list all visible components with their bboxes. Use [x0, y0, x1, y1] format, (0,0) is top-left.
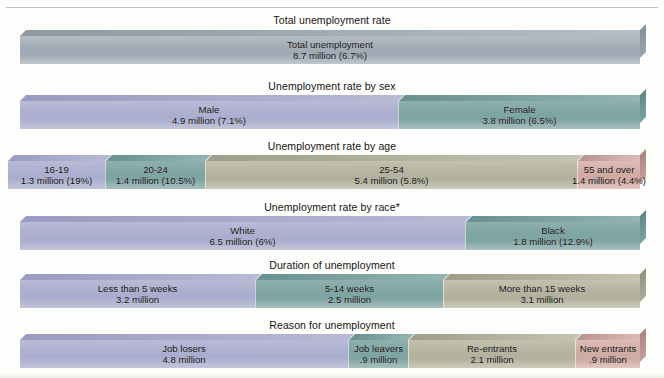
bar-segment[interactable]: 25-545.4 million (5.8%) [205, 161, 577, 189]
stacked-bar: Job losers4.8 millionJob leavers.9 milli… [0, 334, 664, 368]
bar-segment[interactable]: More than 15 weeks3.1 million [443, 280, 640, 308]
segment-name: 16-19 [21, 164, 92, 175]
segment-top-face [20, 95, 404, 101]
segment-label: Female3.8 million (6.5%) [482, 104, 556, 127]
segment-name: 25-54 [354, 164, 428, 175]
segment-label: 25-545.4 million (5.8%) [354, 164, 428, 187]
segment-side-face [640, 268, 646, 302]
bar-segment[interactable]: 5-14 weeks2.5 million [255, 280, 443, 308]
segment-name: Total unemployment [287, 39, 373, 50]
bar-segment[interactable]: Male4.9 million (7.1%) [20, 101, 398, 129]
segment-value: 5.4 million (5.8%) [354, 175, 428, 186]
segment-side-face [640, 89, 646, 123]
row-title: Unemployment rate by race* [0, 201, 664, 213]
segment-name: New entrants [580, 343, 637, 354]
segment-side-face [640, 328, 646, 362]
segment-name: Male [172, 104, 246, 115]
segment-value: 3.2 million [98, 294, 177, 305]
segment-value: 6.5 million (6%) [209, 236, 275, 247]
segment-top-face [20, 216, 471, 222]
segment-label: 5-14 weeks2.5 million [325, 283, 374, 306]
segment-label: Re-entrants2.1 million [467, 343, 517, 366]
bar-segment[interactable]: Female3.8 million (6.5%) [398, 101, 640, 129]
bar-segment[interactable]: Total unemployment8.7 million (6.7%) [20, 36, 640, 64]
bar-segment[interactable]: Re-entrants2.1 million [408, 340, 575, 368]
bar-segment[interactable]: White6.5 million (6%) [20, 222, 465, 250]
segment-value: 1.8 million (12.9%) [513, 236, 592, 247]
bar-segment[interactable]: Black1.8 million (12.9%) [465, 222, 640, 250]
segment-top-face [409, 334, 581, 340]
segment-name: Female [482, 104, 556, 115]
segment-name: 20-24 [116, 164, 195, 175]
row-title: Unemployment rate by sex [0, 80, 664, 92]
segment-value: 4.9 million (7.1%) [172, 115, 246, 126]
segment-top-face [466, 216, 646, 222]
segment-top-face [576, 334, 646, 340]
stacked-bar: White6.5 million (6%)Black1.8 million (1… [0, 216, 664, 250]
bar-segment[interactable]: New entrants.9 million [575, 340, 640, 368]
stacked-bar: 16-191.3 million (19%)20-241.4 million (… [0, 155, 664, 189]
segment-name: Black [513, 225, 592, 236]
segment-name: Job losers [162, 343, 206, 354]
segment-label: Black1.8 million (12.9%) [513, 225, 592, 248]
stacked-bar: Less than 5 weeks3.2 million5-14 weeks2.… [0, 274, 664, 308]
bar-segment[interactable]: Job leavers.9 million [348, 340, 408, 368]
bar-segment[interactable]: 20-241.4 million (10.5%) [105, 161, 205, 189]
segment-label: 16-191.3 million (19%) [21, 164, 92, 187]
segment-label: Job losers4.8 million [162, 343, 206, 366]
segment-value: 8.7 million (6.7%) [287, 50, 373, 61]
page-bottom-edge [0, 372, 664, 378]
bar-segment[interactable]: Less than 5 weeks3.2 million [20, 280, 255, 308]
segment-value: 1.4 million (4.4%) [572, 175, 646, 186]
segment-label: 55 and over1.4 million (4.4%) [572, 164, 646, 187]
segment-top-face [256, 274, 449, 280]
row-title: Unemployment rate by age [0, 140, 664, 152]
stacked-bar: Male4.9 million (7.1%)Female3.8 million … [0, 95, 664, 129]
segment-name: Less than 5 weeks [98, 283, 177, 294]
chart-canvas: Total unemployment rateTotal unemploymen… [0, 0, 664, 378]
segment-top-face [206, 155, 583, 161]
segment-value: 4.8 million [162, 354, 206, 365]
segment-label: White6.5 million (6%) [209, 225, 275, 248]
row-title: Total unemployment rate [0, 14, 664, 26]
segment-label: Job leavers.9 million [354, 343, 403, 366]
bar-segment[interactable]: 16-191.3 million (19%) [8, 161, 105, 189]
segment-label: Total unemployment8.7 million (6.7%) [287, 39, 373, 62]
bar-segment[interactable]: Job losers4.8 million [20, 340, 348, 368]
segment-top-face [20, 274, 261, 280]
segment-side-face [640, 210, 646, 244]
segment-name: Job leavers [354, 343, 403, 354]
row-title: Duration of unemployment [0, 259, 664, 271]
segment-name: Re-entrants [467, 343, 517, 354]
segment-top-face [20, 334, 354, 340]
segment-top-face [444, 274, 646, 280]
segment-value: .9 million [354, 354, 403, 365]
segment-name: More than 15 weeks [499, 283, 585, 294]
segment-value: 3.1 million [499, 294, 585, 305]
segment-value: 2.5 million [325, 294, 374, 305]
segment-top-face [399, 95, 646, 101]
segment-value: 2.1 million [467, 354, 517, 365]
bar-segment[interactable]: 55 and over1.4 million (4.4%) [577, 161, 640, 189]
segment-value: 3.8 million (6.5%) [482, 115, 556, 126]
segment-name: 5-14 weeks [325, 283, 374, 294]
segment-top-face [8, 155, 111, 161]
segment-value: 1.4 million (10.5%) [116, 175, 195, 186]
segment-top-face [349, 334, 414, 340]
segment-label: Male4.9 million (7.1%) [172, 104, 246, 127]
segment-value: 1.3 million (19%) [21, 175, 92, 186]
segment-name: White [209, 225, 275, 236]
segment-label: More than 15 weeks3.1 million [499, 283, 585, 306]
segment-label: 20-241.4 million (10.5%) [116, 164, 195, 187]
segment-value: .9 million [580, 354, 637, 365]
row-title: Reason for unemployment [0, 319, 664, 331]
segment-name: 55 and over [572, 164, 646, 175]
segment-top-face [578, 155, 646, 161]
segment-label: Less than 5 weeks3.2 million [98, 283, 177, 306]
segment-label: New entrants.9 million [580, 343, 637, 366]
page-top-rule [6, 7, 658, 8]
stacked-bar: Total unemployment8.7 million (6.7%) [0, 30, 664, 64]
segment-top-face [20, 30, 646, 36]
segment-side-face [640, 24, 646, 58]
segment-top-face [106, 155, 211, 161]
